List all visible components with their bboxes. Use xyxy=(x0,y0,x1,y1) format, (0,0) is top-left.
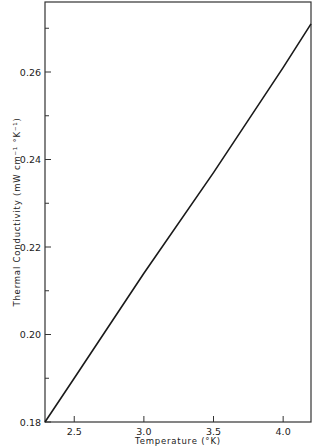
x-tick-label: 2.5 xyxy=(67,426,82,437)
data-line xyxy=(45,24,311,422)
y-tick-label: 0.18 xyxy=(20,417,41,428)
y-tick-label: 0.22 xyxy=(20,242,41,253)
x-tick-label: 4.0 xyxy=(276,426,291,437)
y-tick-label: 0.26 xyxy=(20,67,41,78)
y-tick-label: 0.24 xyxy=(20,154,41,165)
plot-frame xyxy=(45,2,311,422)
chart: 0.180.200.220.240.26 2.53.03.54.0 Temper… xyxy=(0,0,319,448)
y-axis-ticks: 0.180.200.220.240.26 xyxy=(20,28,51,427)
x-axis-label: Temperature (°K) xyxy=(134,436,221,446)
x-axis-ticks: 2.53.03.54.0 xyxy=(67,416,291,437)
y-tick-label: 0.20 xyxy=(20,329,41,340)
y-axis-label: Thermal Conductivity (mW cm⁻¹ °K⁻¹) xyxy=(12,117,22,307)
